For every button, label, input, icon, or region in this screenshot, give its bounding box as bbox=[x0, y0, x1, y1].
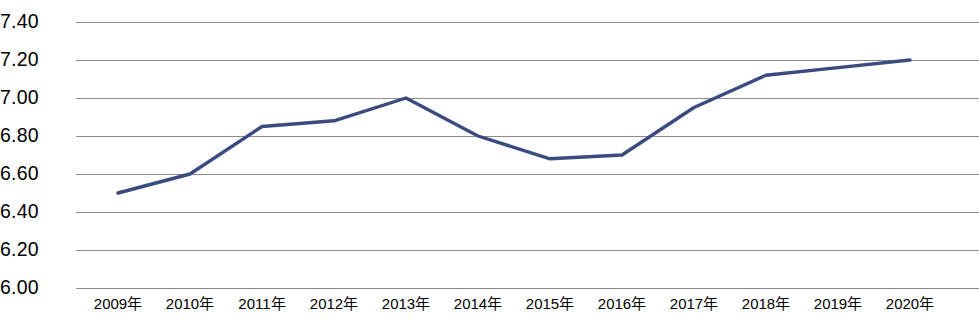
x-tick-label: 2014年 bbox=[454, 296, 502, 311]
x-tick-label: 2015年 bbox=[526, 296, 574, 311]
x-tick-label: 2011年 bbox=[238, 296, 285, 311]
y-tick-label: 6.60 bbox=[0, 164, 66, 184]
y-tick-label: 7.40 bbox=[0, 12, 66, 32]
x-tick-label: 2019年 bbox=[814, 296, 862, 311]
x-axis: 2009年2010年2011年2012年2013年2014年2015年2016年… bbox=[0, 296, 979, 327]
x-tick-label: 2010年 bbox=[166, 296, 214, 311]
x-tick-label: 2018年 bbox=[742, 296, 790, 311]
series-layer bbox=[76, 0, 979, 290]
x-tick-label: 2013年 bbox=[382, 296, 430, 311]
y-tick-label: 7.00 bbox=[0, 88, 66, 108]
y-tick-label: 6.20 bbox=[0, 240, 66, 260]
x-tick-label: 2012年 bbox=[310, 296, 358, 311]
series-line-0 bbox=[118, 60, 910, 193]
x-tick-label: 2016年 bbox=[598, 296, 646, 311]
x-tick-label: 2009年 bbox=[94, 296, 142, 311]
y-tick-label: 6.00 bbox=[0, 278, 66, 298]
x-tick-label: 2017年 bbox=[670, 296, 718, 311]
y-tick-label: 6.40 bbox=[0, 202, 66, 222]
y-tick-label: 7.20 bbox=[0, 50, 66, 70]
plot-area bbox=[76, 0, 979, 290]
line-chart: 7.407.207.006.806.606.406.206.00 2009年20… bbox=[0, 0, 979, 327]
x-tick-label: 2020年 bbox=[886, 296, 934, 311]
y-tick-label: 6.80 bbox=[0, 126, 66, 146]
